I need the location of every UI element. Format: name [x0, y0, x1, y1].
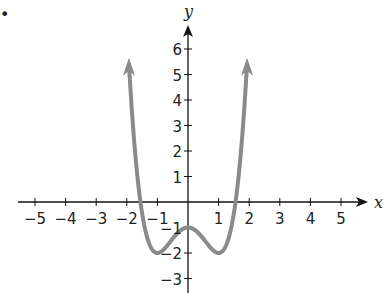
x-tick-label: −3	[85, 210, 107, 228]
x-tick-label: −4	[55, 210, 77, 228]
x-tick-label: 5	[336, 210, 346, 228]
y-tick-label: 6	[172, 41, 182, 59]
y-tick-label: −1	[160, 220, 182, 238]
x-axis-label: x	[374, 193, 383, 212]
graph-canvas: −5−4−3−2−112345−3−2−1123456xy	[0, 0, 383, 293]
bullet-marker: •	[0, 5, 9, 24]
x-tick-label: 1	[214, 210, 224, 228]
y-tick-label: 3	[172, 118, 182, 136]
y-tick-label: 2	[172, 143, 182, 161]
x-tick-label: 3	[275, 210, 285, 228]
x-tick-label: 2	[244, 210, 254, 228]
y-tick-label: 1	[172, 169, 182, 187]
y-tick-label: 4	[172, 92, 182, 110]
x-tick-label: −2	[116, 210, 138, 228]
y-axis-label: y	[183, 2, 194, 21]
labels: −5−4−3−2−112345−3−2−1123456xy	[24, 2, 383, 289]
y-tick-label: 5	[172, 67, 182, 85]
x-tick-label: 4	[306, 210, 316, 228]
x-tick-label: −5	[24, 210, 46, 228]
y-tick-label: −3	[160, 271, 182, 289]
y-tick-label: −2	[160, 245, 182, 263]
